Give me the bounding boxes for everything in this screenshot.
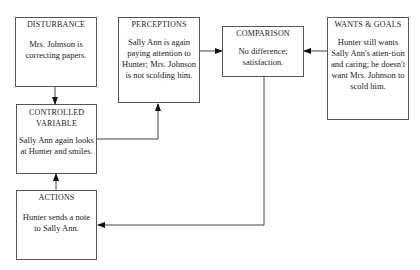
disturbance-text: Mrs. Johnson is correcting papers.: [16, 39, 96, 61]
wants-goals-box: WANTS & GOALS Hunter still wants Sally A…: [327, 17, 409, 120]
comparison-text: No difference; satisfaction.: [223, 46, 303, 68]
controlled-variable-box: CONTROLLED VARIABLE Sally Ann again look…: [16, 104, 97, 174]
perceptions-box: PERCEPTIONS Sally Ann is again paying at…: [118, 17, 200, 103]
perceptions-title: PERCEPTIONS: [119, 20, 199, 30]
wants-goals-title: WANTS & GOALS: [328, 20, 408, 30]
wants-goals-text: Hunter still wants Sally Ann's atten-tio…: [328, 37, 408, 92]
disturbance-title: DISTURBANCE: [16, 20, 96, 30]
controlled-variable-text: Sally Ann again looks at Hunter and smil…: [17, 135, 96, 157]
arrow-cv-to-perceptions: [97, 104, 158, 139]
comparison-title: COMPARISON: [223, 29, 303, 39]
actions-title: ACTIONS: [17, 193, 96, 203]
actions-box: ACTIONS Hunter sends a note to Sally Ann…: [16, 190, 97, 260]
perceptions-text: Sally Ann is again paying attention to H…: [119, 37, 199, 81]
actions-text: Hunter sends a note to Sally Ann.: [17, 212, 96, 234]
disturbance-box: DISTURBANCE Mrs. Johnson is correcting p…: [15, 17, 97, 87]
comparison-box: COMPARISON No difference; satisfaction.: [222, 26, 304, 77]
controlled-variable-title: CONTROLLED VARIABLE: [17, 107, 96, 129]
